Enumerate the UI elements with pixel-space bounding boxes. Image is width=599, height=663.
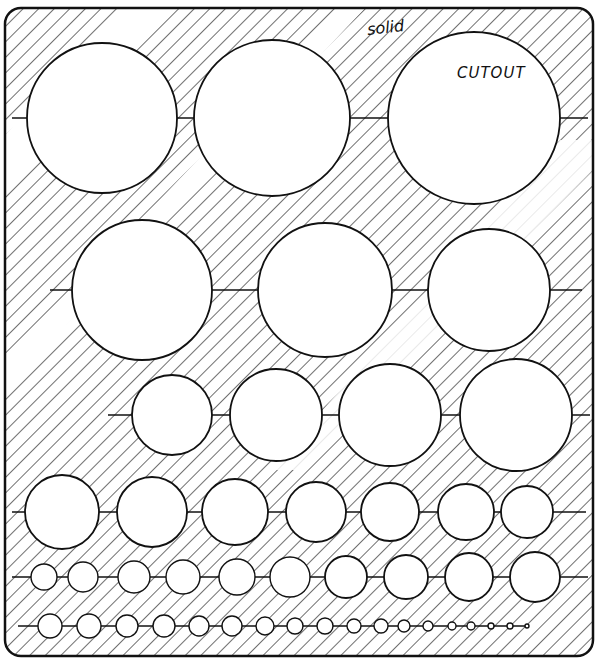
circle-cutout xyxy=(72,220,212,360)
circle-cutout xyxy=(339,364,441,466)
circle-cutout xyxy=(77,614,101,638)
solid-label: solid xyxy=(366,16,405,39)
circle-row-1 xyxy=(12,32,588,204)
circle-cutout xyxy=(256,617,274,635)
circle-cutout xyxy=(230,369,322,461)
circle-cutout xyxy=(423,621,433,631)
circle-cutout xyxy=(374,619,388,633)
stencil-drawing xyxy=(0,0,599,663)
circle-cutout xyxy=(132,375,212,455)
circle-cutout xyxy=(194,40,350,196)
circle-cutout xyxy=(31,564,57,590)
circle-cutout xyxy=(202,479,268,545)
circle-cutout xyxy=(219,559,255,595)
circle-cutout xyxy=(445,553,493,601)
circle-cutout xyxy=(153,615,175,637)
circle-cutout xyxy=(68,562,98,592)
circle-cutout xyxy=(467,622,475,630)
cutout-label: CUTOUT xyxy=(457,64,526,82)
circle-cutout xyxy=(428,229,550,351)
circle-cutout xyxy=(222,616,242,636)
circle-cutout xyxy=(510,552,560,602)
circle-cutout xyxy=(460,359,572,471)
circle-cutout xyxy=(258,223,392,357)
circle-cutout xyxy=(347,619,361,633)
circle-cutout xyxy=(116,615,138,637)
circle-cutout xyxy=(438,484,494,540)
circle-cutout xyxy=(361,483,419,541)
circle-cutout xyxy=(448,622,456,630)
circle-cutout xyxy=(286,482,346,542)
circle-cutout xyxy=(525,624,529,628)
circle-template-diagram: solid CUTOUT xyxy=(0,0,599,663)
circle-cutout xyxy=(38,614,62,638)
circle-cutout xyxy=(501,486,553,538)
circle-cutout xyxy=(398,620,410,632)
circle-cutout xyxy=(27,43,177,193)
circle-cutout xyxy=(488,623,494,629)
circle-cutout xyxy=(117,477,187,547)
circle-cutout xyxy=(118,561,150,593)
circle-cutout xyxy=(270,557,310,597)
circle-cutout xyxy=(166,560,200,594)
circle-cutout xyxy=(384,555,428,599)
circle-cutout xyxy=(317,618,333,634)
circle-cutout xyxy=(287,618,303,634)
circle-cutout xyxy=(25,475,99,549)
circle-cutout xyxy=(189,616,209,636)
circle-cutout xyxy=(388,32,560,204)
circle-cutout xyxy=(325,556,367,598)
circle-row-2 xyxy=(50,220,582,360)
circle-cutout xyxy=(507,623,513,629)
